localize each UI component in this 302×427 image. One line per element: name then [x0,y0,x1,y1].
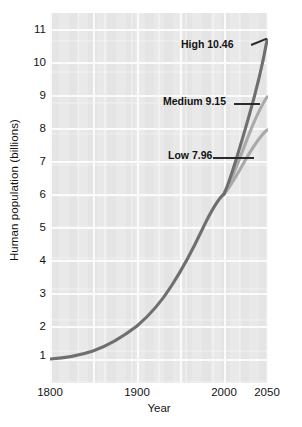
annotation-medium-label: Medium 9.15 [163,95,226,107]
y-tick-label-11: 11 [20,23,46,35]
y-tick-label-7: 7 [20,155,46,167]
x-tick-label-2050: 2050 [245,386,289,398]
y-tick-label-1: 1 [20,349,46,361]
x-tick-label-2000: 2000 [202,386,246,398]
y-axis-title-text: Human population (billions) [8,119,20,261]
x-tick-label-1900: 1900 [115,386,159,398]
annotation-low-label: Low 7.96 [168,149,212,161]
y-tick-label-2: 2 [20,320,46,332]
curve-group [50,13,268,383]
x-axis-title: Year [50,402,268,414]
x-tick-label-1800: 1800 [28,386,72,398]
y-tick-label-5: 5 [20,221,46,233]
y-tick-label-3: 3 [20,287,46,299]
y-tick-label-9: 9 [20,89,46,101]
y-tick-label-10: 10 [20,56,46,68]
plot-area [50,13,268,383]
y-tick-label-8: 8 [20,122,46,134]
curve-high [224,40,267,194]
curve-historical [50,194,224,359]
y-tick-label-6: 6 [20,188,46,200]
population-projection-chart: Human population (billions) 11 10 9 8 7 … [0,0,302,427]
annotation-high-label: High 10.46 [181,38,234,50]
y-tick-label-4: 4 [20,254,46,266]
annotation-medium-leader [234,103,260,105]
annotation-low-leader [213,157,254,159]
